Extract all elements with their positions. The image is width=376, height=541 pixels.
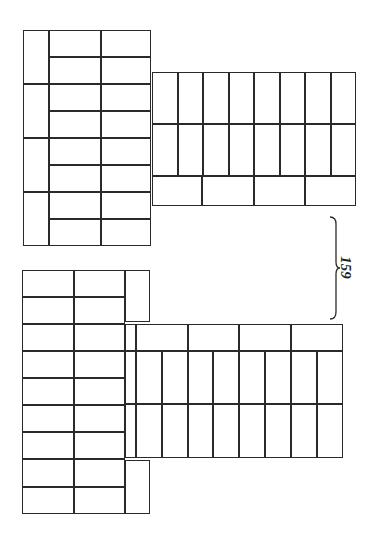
brick bbox=[239, 351, 265, 404]
brick bbox=[101, 111, 151, 138]
brick bbox=[254, 72, 280, 124]
brick bbox=[229, 124, 254, 176]
brick bbox=[305, 72, 331, 124]
brick bbox=[239, 324, 291, 351]
brick bbox=[239, 404, 265, 458]
brick bbox=[101, 84, 151, 111]
brick bbox=[125, 404, 136, 458]
brick bbox=[265, 351, 291, 404]
brick bbox=[101, 192, 151, 219]
brick bbox=[49, 30, 101, 57]
brick bbox=[22, 270, 74, 297]
brick bbox=[136, 351, 162, 404]
brick bbox=[254, 176, 305, 206]
brick bbox=[280, 124, 305, 176]
brick bbox=[229, 72, 254, 124]
brick bbox=[22, 487, 74, 514]
brick bbox=[136, 324, 188, 351]
brick bbox=[203, 72, 229, 124]
brick bbox=[23, 192, 49, 246]
brick bbox=[178, 124, 203, 176]
brick bbox=[305, 176, 356, 206]
brick bbox=[188, 324, 239, 351]
brick bbox=[265, 404, 291, 458]
brick bbox=[23, 30, 49, 84]
brick bbox=[125, 270, 150, 322]
brick bbox=[49, 138, 101, 165]
brick bbox=[23, 84, 49, 138]
brick bbox=[331, 124, 356, 176]
brick bbox=[178, 72, 203, 124]
brick bbox=[202, 176, 254, 206]
brick bbox=[74, 351, 125, 378]
brick bbox=[101, 30, 151, 57]
brick bbox=[101, 138, 151, 165]
brick bbox=[49, 219, 101, 246]
brick bbox=[74, 459, 125, 487]
brick bbox=[49, 192, 101, 219]
brick bbox=[101, 57, 151, 84]
brick bbox=[162, 351, 188, 404]
brick-bond-diagram: 159 bbox=[0, 0, 376, 541]
brick bbox=[74, 297, 125, 324]
brick bbox=[280, 72, 305, 124]
brick bbox=[152, 124, 178, 176]
brick bbox=[49, 84, 101, 111]
brick bbox=[74, 432, 125, 459]
brick bbox=[317, 351, 343, 404]
brick bbox=[152, 176, 202, 206]
brick bbox=[305, 124, 331, 176]
brick bbox=[152, 72, 178, 124]
brick bbox=[188, 404, 213, 458]
brick bbox=[101, 219, 151, 246]
brick bbox=[22, 405, 74, 432]
brick bbox=[49, 165, 101, 192]
brick bbox=[125, 460, 150, 514]
brick bbox=[22, 324, 74, 351]
brick bbox=[22, 432, 74, 459]
brick bbox=[22, 459, 74, 487]
brick bbox=[331, 72, 356, 124]
brick bbox=[136, 404, 162, 458]
brick bbox=[291, 351, 317, 404]
brick bbox=[49, 57, 101, 84]
brick bbox=[203, 124, 229, 176]
brick bbox=[22, 378, 74, 405]
brick bbox=[74, 378, 125, 405]
reference-number-label: 159 bbox=[337, 256, 354, 279]
brick bbox=[49, 111, 101, 138]
brick bbox=[74, 270, 125, 297]
brick bbox=[125, 324, 136, 351]
brick bbox=[291, 324, 343, 351]
brick bbox=[23, 138, 49, 192]
brick bbox=[317, 404, 343, 458]
brick bbox=[213, 404, 239, 458]
brick bbox=[125, 351, 136, 404]
brick bbox=[22, 297, 74, 324]
brick bbox=[254, 124, 280, 176]
brick bbox=[213, 351, 239, 404]
brick bbox=[74, 405, 125, 432]
brick bbox=[291, 404, 317, 458]
brick bbox=[74, 324, 125, 351]
brick bbox=[162, 404, 188, 458]
brick bbox=[101, 165, 151, 192]
brick bbox=[74, 487, 125, 514]
brick bbox=[22, 351, 74, 378]
brick bbox=[188, 351, 213, 404]
